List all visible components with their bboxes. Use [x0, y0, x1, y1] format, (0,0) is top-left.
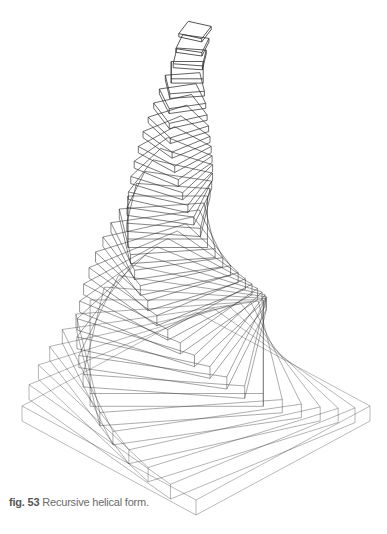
slab-stack [22, 21, 370, 515]
slab [79, 276, 267, 390]
slab [179, 21, 211, 42]
slab [173, 48, 206, 70]
figure-caption: fig. 53 Recursive helical form. [9, 496, 149, 508]
slab [176, 35, 209, 56]
helical-form-diagram [0, 0, 387, 534]
slab [76, 301, 282, 426]
slab [138, 127, 211, 173]
slab [131, 149, 213, 200]
slab [159, 84, 205, 114]
slab [148, 105, 208, 143]
figure-caption-text: Recursive helical form. [42, 496, 149, 508]
figure-number: fig. 53 [9, 496, 39, 508]
